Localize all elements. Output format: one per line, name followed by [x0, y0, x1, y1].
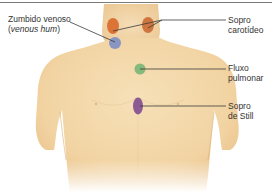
still-murmur-label: Sopro de Still [228, 101, 254, 121]
venous-hum-label: Zumbido venoso (venous hum) [8, 14, 71, 34]
carotid-right-marker [142, 17, 154, 33]
carotid-left-marker [107, 18, 119, 34]
carotid-label: Sopro carotídeo [228, 15, 263, 35]
venous-hum-marker [109, 37, 121, 49]
pulmonary-flow-label: Fluxo pulmonar [228, 63, 263, 83]
